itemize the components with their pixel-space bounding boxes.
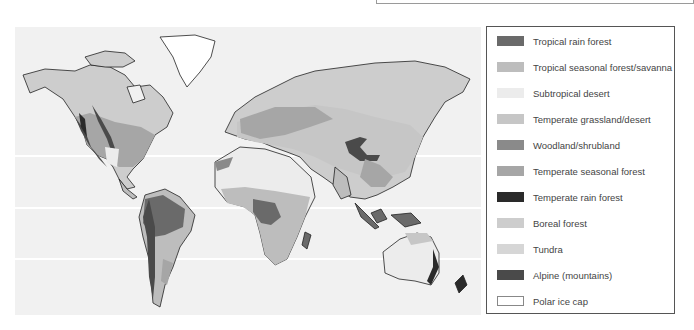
africa bbox=[215, 147, 315, 265]
legend-item-boreal-forest: Boreal forest bbox=[497, 216, 587, 230]
south-america bbox=[139, 189, 195, 307]
swatch bbox=[497, 36, 524, 46]
map-graphic bbox=[15, 27, 481, 315]
legend-item-tropical-rain-forest: Tropical rain forest bbox=[497, 34, 611, 48]
legend-label: Tropical seasonal forest/savanna bbox=[533, 62, 672, 73]
southeast-asia-islands bbox=[355, 203, 421, 229]
swatch bbox=[497, 114, 524, 124]
legend-label: Boreal forest bbox=[533, 218, 587, 229]
swatch bbox=[497, 192, 524, 202]
legend-item-woodland-shrubland: Woodland/shrubland bbox=[497, 138, 620, 152]
world-biome-map bbox=[15, 27, 481, 315]
legend-item-tundra: Tundra bbox=[497, 242, 563, 256]
legend-label: Temperate rain forest bbox=[533, 192, 623, 203]
legend-item-temperate-grassland: Temperate grassland/desert bbox=[497, 112, 651, 126]
legend-item-tropical-seasonal-forest: Tropical seasonal forest/savanna bbox=[497, 60, 672, 74]
swatch bbox=[497, 218, 524, 228]
legend-item-temperate-seasonal-forest: Temperate seasonal forest bbox=[497, 164, 645, 178]
australia bbox=[383, 233, 467, 293]
legend-item-subtropical-desert: Subtropical desert bbox=[497, 86, 610, 100]
legend-label: Temperate seasonal forest bbox=[533, 166, 645, 177]
legend-label: Woodland/shrubland bbox=[533, 140, 620, 151]
legend-label: Alpine (mountains) bbox=[533, 270, 612, 281]
legend-item-temperate-rain-forest: Temperate rain forest bbox=[497, 190, 623, 204]
swatch bbox=[497, 88, 524, 98]
swatch bbox=[497, 62, 524, 72]
legend-item-polar-ice-cap: Polar ice cap bbox=[497, 294, 588, 308]
biome-legend: Tropical rain forest Tropical seasonal f… bbox=[486, 26, 675, 314]
legend-label: Subtropical desert bbox=[533, 88, 610, 99]
swatch bbox=[497, 270, 524, 280]
legend-item-alpine: Alpine (mountains) bbox=[497, 268, 612, 282]
swatch bbox=[497, 166, 524, 176]
north-america bbox=[23, 51, 173, 199]
top-panel-edge bbox=[376, 0, 694, 4]
swatch bbox=[497, 140, 524, 150]
legend-label: Tundra bbox=[533, 244, 563, 255]
swatch bbox=[497, 244, 524, 254]
swatch bbox=[497, 296, 524, 306]
legend-label: Tropical rain forest bbox=[533, 36, 611, 47]
legend-label: Polar ice cap bbox=[533, 296, 588, 307]
legend-label: Temperate grassland/desert bbox=[533, 114, 651, 125]
greenland bbox=[160, 35, 215, 87]
